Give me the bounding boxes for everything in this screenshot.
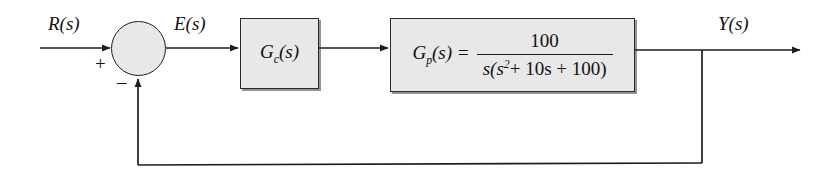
error-signal-label: E(s) — [174, 14, 206, 33]
plant-numerator: 100 — [520, 30, 569, 54]
block-diagram-canvas: + – R(s) E(s) Y(s) Gc(s) Gp(s) = 100 s(s… — [0, 0, 822, 179]
summing-junction-plus-sign: + — [95, 54, 106, 73]
input-signal-label: R(s) — [48, 14, 80, 33]
controller-block-label: Gc(s) — [260, 41, 299, 67]
plant-transfer-function-lhs: Gp(s) = — [412, 42, 469, 68]
controller-block: Gc(s) — [240, 18, 319, 89]
plant-denominator: s(s2+ 10s + 100) — [477, 55, 613, 80]
summing-junction-minus-sign: – — [117, 72, 127, 91]
output-signal-label: Y(s) — [718, 14, 749, 33]
plant-transfer-function: Gp(s) = 100 s(s2+ 10s + 100) — [412, 30, 612, 81]
plant-block: Gp(s) = 100 s(s2+ 10s + 100) — [390, 18, 635, 92]
wire-feedback-horizontal — [138, 163, 702, 165]
plant-transfer-function-fraction: 100 s(s2+ 10s + 100) — [477, 30, 613, 81]
summing-junction — [111, 21, 166, 76]
